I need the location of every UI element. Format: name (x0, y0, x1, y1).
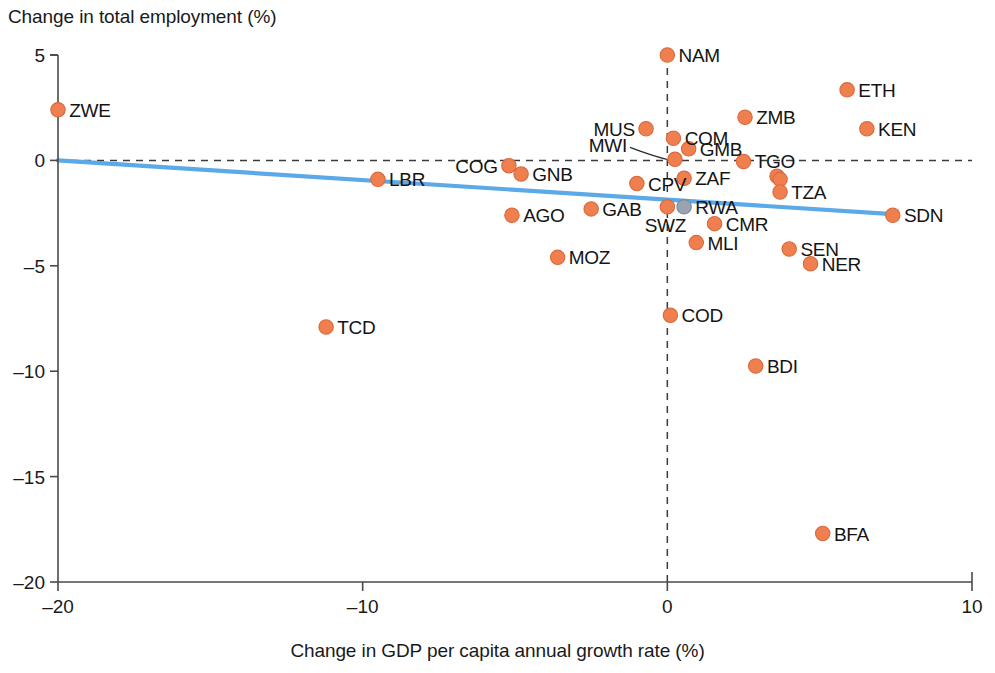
data-point-cpv (630, 176, 644, 190)
data-point-label-ken: KEN (878, 119, 916, 140)
data-point-label-eth: ETH (858, 80, 895, 101)
data-point-cog (502, 158, 516, 172)
data-point-label-moz: MOZ (569, 247, 611, 268)
data-point-label-tgo: TGO (755, 151, 795, 172)
data-point-label-zwe: ZWE (69, 100, 110, 121)
y-tick-label--10: –10 (13, 361, 45, 382)
data-point-bfa (816, 526, 830, 540)
y-tick-label-5: 5 (34, 45, 45, 66)
data-point-lbr (371, 172, 385, 186)
data-point-gnb (514, 167, 528, 181)
data-point-swz (660, 200, 674, 214)
data-point-rwa (677, 200, 691, 214)
data-point-label-gab: GAB (602, 199, 641, 220)
data-point-labels-group: ZWETCDLBRCOGGNBAGOMOZGABCPVMUSCOMNAMMWIG… (69, 45, 943, 545)
data-point-label-nam: NAM (679, 45, 720, 66)
data-point-label-cog: COG (455, 156, 497, 177)
data-point-cmr (707, 216, 721, 230)
data-point-sen (782, 242, 796, 256)
data-point-label-cpv: CPV (648, 174, 687, 195)
data-point-tcd (319, 320, 333, 334)
data-point-label-swz: SWZ (645, 215, 687, 236)
data-point-mwi (668, 152, 682, 166)
data-point-label-tza: TZA (791, 182, 827, 203)
data-point-eth (840, 83, 854, 97)
data-point-label-bdi: BDI (767, 356, 798, 377)
data-point-mli (689, 235, 703, 249)
reference-lines-group (58, 55, 972, 582)
data-point-bdi (748, 359, 762, 373)
x-tick-label-10: 10 (961, 596, 982, 617)
data-point-sdn (886, 208, 900, 222)
data-point-label-gmb: GMB (700, 139, 742, 160)
data-point-mus (639, 122, 653, 136)
data-point-moz (550, 250, 564, 264)
x-tick-label-0: 0 (662, 596, 673, 617)
x-tick-label--20: –20 (42, 596, 74, 617)
data-point-cod (663, 308, 677, 322)
data-point-label-cod: COD (682, 305, 723, 326)
data-point-ago (505, 208, 519, 222)
y-tick-label--5: –5 (24, 256, 45, 277)
scatter-chart: Change in total employment (%) Change in… (0, 0, 995, 673)
data-point-nam (660, 48, 674, 62)
data-point-label-mwi: MWI (589, 135, 627, 156)
data-point-tza (773, 185, 787, 199)
data-point-label-sdn: SDN (904, 205, 943, 226)
data-point-label-tcd: TCD (337, 317, 375, 338)
data-point-zmb (738, 110, 752, 124)
data-point-label-ner: NER (822, 254, 861, 275)
data-point-gab (584, 202, 598, 216)
data-point-com (666, 131, 680, 145)
plot-area: 50–5–10–15–20–20–10010 ZWETCDLBRCOGGNBAG… (0, 0, 995, 673)
data-point-label-mli: MLI (707, 233, 738, 254)
y-tick-label--20: –20 (13, 572, 45, 593)
data-point-label-bfa: BFA (834, 524, 870, 545)
data-point-label-gnb: GNB (532, 164, 572, 185)
axes-group (50, 55, 972, 591)
data-point-label-lbr: LBR (389, 169, 425, 190)
y-tick-label-0: 0 (34, 150, 45, 171)
leader-line-mwi (630, 147, 667, 159)
data-point-label-zmb: ZMB (756, 107, 795, 128)
data-point-label-cmr: CMR (726, 214, 768, 235)
data-point-label-ago: AGO (523, 205, 564, 226)
data-point-zwe (51, 103, 65, 117)
y-tick-label--15: –15 (13, 467, 45, 488)
data-point-ken (860, 122, 874, 136)
data-point-label-zaf: ZAF (695, 168, 730, 189)
x-tick-label--10: –10 (347, 596, 379, 617)
